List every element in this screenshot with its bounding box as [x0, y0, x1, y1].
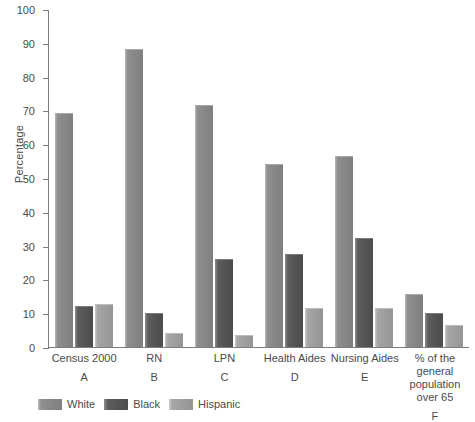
- y-axis-tick: 40: [43, 213, 48, 214]
- bar-hispanic[interactable]: [375, 308, 393, 347]
- category-label: population: [400, 378, 470, 391]
- category-letter: D: [260, 371, 330, 384]
- category-label: Census 2000: [49, 352, 119, 365]
- bar-black[interactable]: [355, 238, 373, 348]
- bar-black[interactable]: [215, 259, 233, 347]
- category-letter: E: [330, 371, 400, 384]
- y-axis-tick-label: 60: [23, 139, 35, 151]
- y-axis-tick: 80: [43, 78, 48, 79]
- y-axis-tick: 90: [43, 44, 48, 45]
- y-axis-tick-label: 70: [23, 105, 35, 117]
- bars-layer: [49, 10, 469, 347]
- plot-area: 0102030405060708090100: [48, 10, 469, 348]
- y-axis-tick: 60: [43, 145, 48, 146]
- bar-black[interactable]: [145, 313, 163, 347]
- y-axis-tick-label: 40: [23, 207, 35, 219]
- y-axis-tick-label: 10: [23, 308, 35, 320]
- legend-item[interactable]: White: [38, 398, 95, 410]
- bar-hispanic[interactable]: [235, 335, 253, 347]
- legend: WhiteBlackHispanic: [38, 398, 240, 410]
- bar-white[interactable]: [55, 113, 73, 347]
- bar-white[interactable]: [125, 49, 143, 347]
- category-label: % of the: [400, 352, 470, 365]
- bar-hispanic[interactable]: [95, 304, 113, 347]
- y-axis-title: Percentage: [13, 104, 25, 204]
- bar-group: [49, 10, 119, 347]
- bar-white[interactable]: [195, 105, 213, 347]
- y-axis-tick: 10: [43, 314, 48, 315]
- legend-swatch-white: [38, 399, 62, 410]
- category-label: Nursing Aides: [330, 352, 400, 365]
- bar-hispanic[interactable]: [165, 333, 183, 347]
- y-axis-tick: 30: [43, 247, 48, 248]
- y-axis-tick: 70: [43, 111, 48, 112]
- y-axis-tick-label: 90: [23, 38, 35, 50]
- bar-group: [259, 10, 329, 347]
- x-axis-category: % of thegeneralpopulationover 65F: [400, 352, 470, 414]
- category-label: LPN: [189, 352, 259, 365]
- category-letter: C: [189, 371, 259, 384]
- legend-swatch-black: [104, 399, 128, 410]
- y-axis-tick-label: 0: [29, 342, 35, 354]
- legend-swatch-hispanic: [169, 399, 193, 410]
- y-axis-tick-label: 30: [23, 241, 35, 253]
- bar-white[interactable]: [335, 156, 353, 347]
- bar-chart: Percentage 0102030405060708090100 Census…: [0, 0, 475, 422]
- bar-white[interactable]: [405, 294, 423, 347]
- y-axis-tick: 20: [43, 280, 48, 281]
- legend-label: White: [67, 398, 95, 410]
- y-axis-tick-label: 100: [17, 4, 35, 16]
- bar-hispanic[interactable]: [445, 325, 463, 347]
- category-letter: A: [49, 371, 119, 384]
- legend-item[interactable]: Black: [104, 398, 160, 410]
- x-axis-line: [48, 347, 469, 348]
- category-label: RN: [119, 352, 189, 365]
- legend-label: Hispanic: [198, 398, 240, 410]
- legend-item[interactable]: Hispanic: [169, 398, 240, 410]
- category-letter: F: [400, 410, 470, 422]
- y-axis-tick: 100: [43, 10, 48, 11]
- bar-group: [329, 10, 399, 347]
- bar-group: [399, 10, 469, 347]
- bar-black[interactable]: [425, 313, 443, 347]
- category-label: over 65: [400, 391, 470, 404]
- bar-white[interactable]: [265, 164, 283, 347]
- bar-black[interactable]: [285, 254, 303, 347]
- y-axis-tick-label: 20: [23, 274, 35, 286]
- y-axis-tick: 50: [43, 179, 48, 180]
- bar-hispanic[interactable]: [305, 308, 323, 347]
- category-letter: B: [119, 371, 189, 384]
- bar-group: [119, 10, 189, 347]
- bar-group: [189, 10, 259, 347]
- category-label: Health Aides: [260, 352, 330, 365]
- y-axis-tick-label: 80: [23, 72, 35, 84]
- x-axis-category: Nursing AidesE: [330, 352, 400, 414]
- legend-label: Black: [133, 398, 160, 410]
- category-label: general: [400, 365, 470, 378]
- y-axis-tick: 0: [43, 348, 48, 349]
- bar-black[interactable]: [75, 306, 93, 347]
- x-axis-category: Health AidesD: [260, 352, 330, 414]
- y-axis-tick-label: 50: [23, 173, 35, 185]
